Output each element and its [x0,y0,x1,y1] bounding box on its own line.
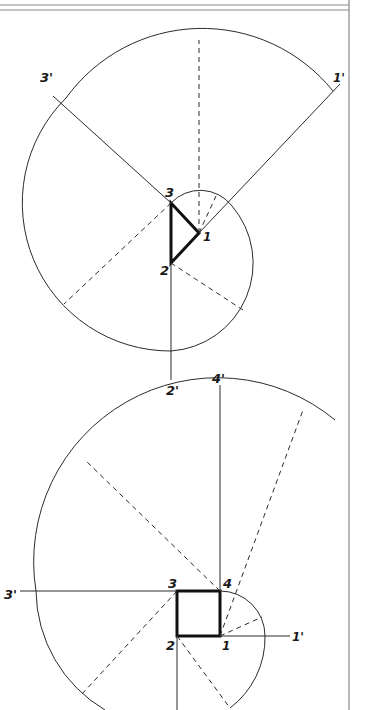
arc-medium [171,206,253,351]
label-ext-2-upper: 2' [166,383,179,398]
square-involute-figure [20,378,335,710]
label-ext-1-lower: 1' [292,630,304,644]
square-base [177,591,220,636]
label-vertex-2-lower: 2 [166,638,175,653]
label-ext-4-lower: 4' [211,371,225,386]
label-vertex-3-upper: 3 [165,185,174,200]
label-vertex-1-upper: 1 [203,230,211,244]
label-ext-3-upper: 3' [40,70,53,85]
label-ext-1-upper: 1' [333,71,345,85]
triangle-involute-figure [22,28,340,380]
triangle-base [171,203,199,263]
arc-small [171,190,232,206]
drawing-canvas: 3 1 2 3' 1' 2' 3 4 1 2 3' 4' 1' [0,0,368,710]
extension-line-3 [53,96,171,203]
label-ext-3-lower: 3' [4,587,17,602]
page-frame [0,0,349,710]
label-vertex-1-lower: 1 [222,639,230,653]
label-vertex-3-lower: 3 [168,576,177,591]
extension-line-1 [199,84,340,233]
label-vertex-4-lower: 4 [222,576,232,591]
label-vertex-2-upper: 2 [160,263,169,278]
